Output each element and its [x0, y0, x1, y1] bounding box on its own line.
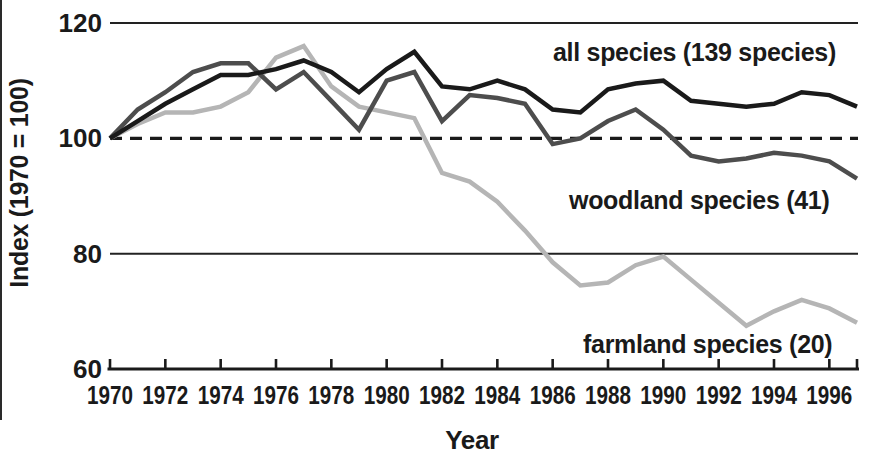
y-tick-label: 80	[73, 239, 102, 269]
x-tick-label: 1984	[474, 380, 520, 410]
x-tick-label: 1996	[806, 380, 852, 410]
x-tick-label: 1972	[142, 380, 188, 410]
x-tick-label: 1994	[751, 380, 797, 410]
series-label-farmland-species: farmland species (20)	[583, 330, 832, 359]
series-label-woodland-species: woodland species (41)	[569, 186, 829, 215]
x-tick-label: 1974	[198, 380, 244, 410]
x-tick-label: 1970	[87, 380, 133, 410]
x-tick-label: 1978	[308, 380, 354, 410]
x-tick-label: 1982	[419, 380, 465, 410]
y-tick-label: 60	[73, 354, 102, 384]
x-tick-label: 1992	[696, 380, 742, 410]
x-axis-title: Year	[445, 425, 499, 456]
x-tick-label: 1980	[364, 380, 410, 410]
y-tick-label: 100	[59, 123, 103, 153]
x-tick-label: 1986	[530, 380, 576, 410]
bird-index-chart: 1970197219741976197819801982198419861988…	[0, 0, 872, 469]
x-tick-label: 1988	[585, 380, 631, 410]
x-tick-label: 1976	[253, 380, 299, 410]
chart-svg: 1970197219741976197819801982198419861988…	[0, 0, 872, 469]
x-tick-label: 1990	[640, 380, 686, 410]
series-line-woodland_species	[110, 63, 857, 178]
y-axis-title: Index (1970 = 100)	[5, 78, 34, 287]
y-tick-label: 120	[59, 8, 103, 38]
series-label-all-species: all species (139 species)	[553, 38, 836, 67]
